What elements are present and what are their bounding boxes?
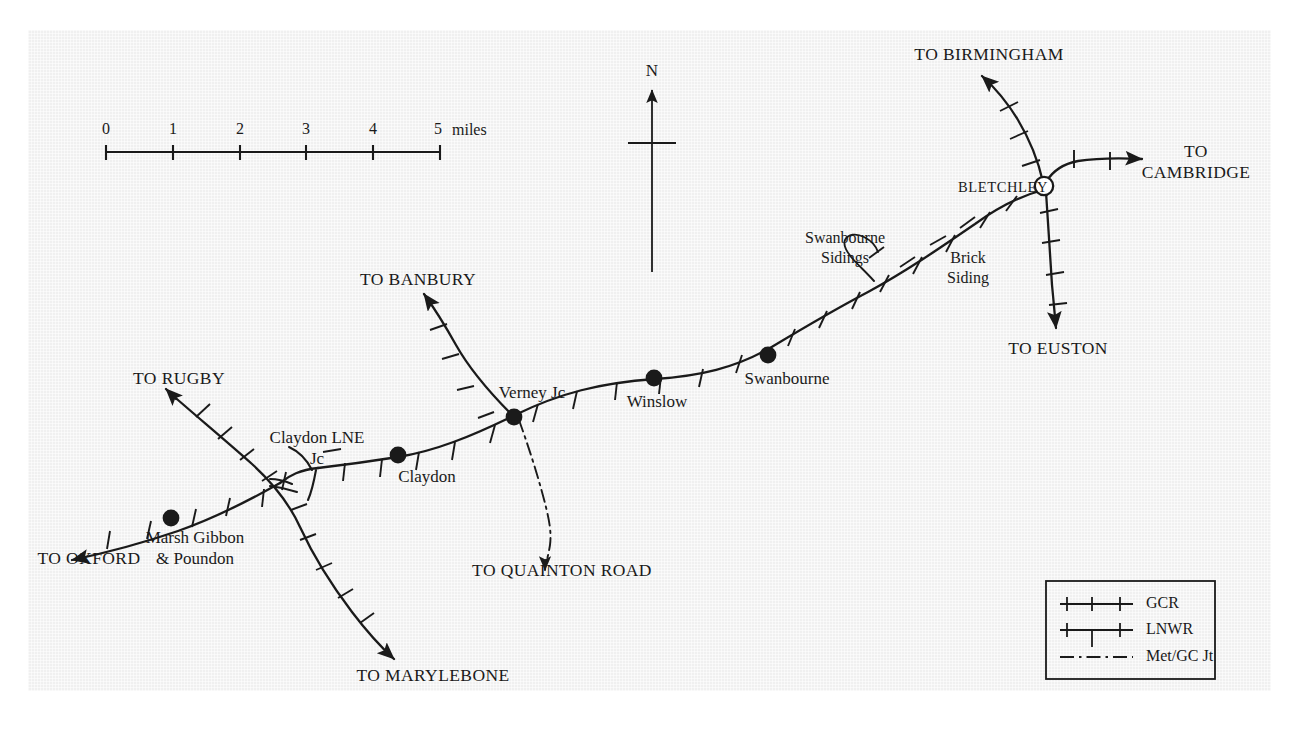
destination-label-rugby: TO RUGBY — [133, 368, 225, 389]
marker-swanbourne — [760, 347, 777, 364]
siding-label-swanbourne-sidings-line1: Swanbourne — [805, 229, 885, 247]
station-label-marsh-gibbon-line1: Marsh Gibbon — [146, 528, 245, 548]
lnwr-bletchley-birmingham-line — [982, 76, 1043, 182]
gcr-rugby-arrow-head — [166, 389, 176, 399]
legend-label-lnwr: LNWR — [1146, 620, 1193, 638]
station-label-winslow: Winslow — [627, 392, 688, 412]
junction-label-claydon-lne-jc-line2: Jc — [310, 449, 324, 469]
scale-tick-4: 4 — [369, 120, 377, 138]
station-label-bletchley: BLETCHLEY — [958, 179, 1048, 196]
destination-label-marylebone: TO MARYLEBONE — [356, 665, 509, 686]
station-label-verney-jc: Verney Jc — [499, 383, 566, 403]
destination-label-birmingham: TO BIRMINGHAM — [914, 44, 1063, 65]
station-label-claydon: Claydon — [398, 467, 456, 487]
destination-label-oxford: TO OXFORD — [38, 548, 141, 569]
station-label-swanbourne: Swanbourne — [745, 369, 830, 389]
north-arrow — [628, 90, 676, 272]
siding-label-brick-siding-line2: Siding — [947, 269, 989, 287]
map-vector-layer — [0, 0, 1298, 734]
marker-marsh-gibbon — [163, 510, 180, 527]
legend-gcr-symbol — [1060, 597, 1133, 611]
lnwr-bletchley-cambridge-line — [1046, 158, 1142, 182]
destination-label-cambridge-line2: CAMBRIDGE — [1142, 162, 1251, 183]
legend-label-met-gc-jt: Met/GC Jt — [1146, 647, 1213, 665]
siding-label-swanbourne-sidings-line2: Sidings — [821, 249, 869, 267]
legend-lnwr-symbol — [1060, 623, 1133, 647]
siding-label-brick-siding-line1: Brick — [950, 249, 986, 267]
scale-unit-label: miles — [452, 121, 487, 139]
station-label-marsh-gibbon-line2: & Poundon — [156, 549, 234, 569]
marker-winslow — [646, 370, 663, 387]
scale-tick-3: 3 — [302, 120, 310, 138]
railway-map: 0 1 2 3 4 5 miles N TO BIRMINGHAM TO CAM… — [0, 0, 1298, 734]
destination-label-cambridge-line1: TO — [1184, 141, 1208, 162]
marker-verney-jc — [506, 409, 523, 426]
scale-tick-0: 0 — [102, 120, 110, 138]
scale-bar — [106, 145, 440, 160]
scale-tick-2: 2 — [236, 120, 244, 138]
destination-label-banbury: TO BANBURY — [360, 269, 476, 290]
scale-tick-5: 5 — [434, 120, 442, 138]
destination-label-euston: TO EUSTON — [1008, 338, 1108, 359]
legend-label-gcr: GCR — [1146, 594, 1179, 612]
marker-claydon — [390, 447, 407, 464]
north-label: N — [646, 61, 658, 81]
lnwr-bletchley-euston-line — [1046, 192, 1056, 328]
destination-label-quainton-road: TO QUAINTON ROAD — [472, 560, 652, 581]
scale-tick-1: 1 — [169, 120, 177, 138]
junction-label-claydon-lne-jc-line1: Claydon LNE — [270, 428, 365, 448]
met-gc-jt-quainton-road-line — [519, 420, 551, 570]
